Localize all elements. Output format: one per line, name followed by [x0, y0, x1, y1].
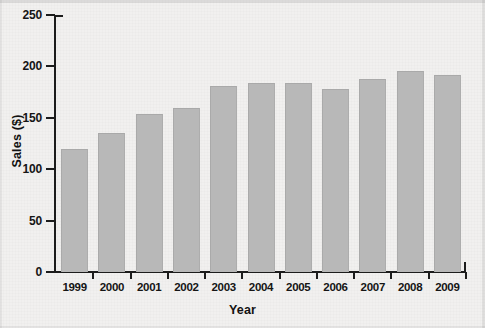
x-axis-tick	[465, 272, 467, 279]
y-axis-tick	[46, 168, 55, 170]
bar-2005	[285, 83, 312, 272]
bar-2000	[98, 133, 125, 272]
bar-2001	[136, 114, 163, 272]
y-axis-tick-label: 200	[2, 60, 42, 72]
x-axis-title: Year	[0, 303, 485, 317]
y-axis-tick	[46, 117, 55, 119]
x-axis-tick	[390, 272, 392, 279]
bar-2009	[434, 75, 461, 272]
y-axis-tick	[46, 14, 55, 16]
bar-2003	[210, 86, 237, 272]
bar-chart-figure: 050100150200250 199920002001200220032004…	[0, 0, 485, 328]
y-axis-tick	[46, 271, 55, 273]
scan-edge-top	[0, 0, 485, 3]
bar-2002	[173, 108, 200, 272]
y-axis-tick	[46, 65, 55, 67]
y-axis-top-cap	[54, 15, 63, 17]
x-axis-tick	[241, 272, 243, 279]
bar-1999	[61, 149, 88, 272]
y-axis-tick-label: 50	[2, 215, 42, 227]
bar-2008	[397, 71, 424, 272]
y-axis-title: Sales ($)	[10, 86, 24, 196]
bar-2007	[359, 79, 386, 272]
x-axis-tick	[428, 272, 430, 279]
x-axis-tick	[316, 272, 318, 279]
x-axis-tick	[353, 272, 355, 279]
x-axis-tick	[130, 272, 132, 279]
x-axis-tick	[167, 272, 169, 279]
y-axis-tick-label: 250	[2, 9, 42, 21]
y-axis-line	[54, 15, 56, 273]
bar-2006	[322, 89, 349, 272]
y-axis-tick	[46, 220, 55, 222]
x-axis-tick	[92, 272, 94, 279]
x-axis-tick	[279, 272, 281, 279]
x-axis-tick	[204, 272, 206, 279]
x-axis-tick-label: 2009	[425, 282, 469, 294]
bar-2004	[248, 83, 275, 272]
y-axis-tick-label: 0	[2, 266, 42, 278]
